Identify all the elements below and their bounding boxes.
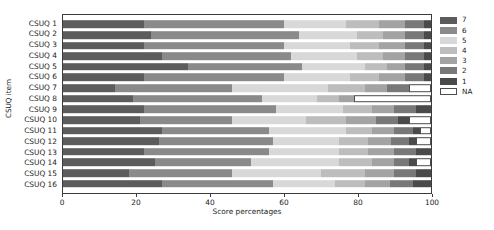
bar-segment bbox=[232, 169, 320, 177]
bar-segment bbox=[63, 148, 144, 156]
y-axis-tick-label: CSUQ 7 bbox=[14, 83, 60, 94]
bar-segment bbox=[144, 106, 276, 114]
legend-item[interactable]: 3 bbox=[440, 57, 490, 65]
bar-segment bbox=[321, 169, 365, 177]
bar-segment bbox=[188, 63, 302, 71]
bar-segment bbox=[284, 21, 347, 29]
bar-segment bbox=[144, 21, 284, 29]
bar-segment bbox=[405, 74, 423, 82]
legend-item[interactable]: 7 bbox=[440, 16, 490, 24]
y-axis-tick-label: CSUQ 10 bbox=[14, 115, 60, 126]
bar-segment bbox=[405, 42, 423, 50]
bar-segment bbox=[368, 137, 390, 145]
x-axis-tick-mark bbox=[432, 194, 433, 197]
x-axis-tick-label: 100 bbox=[425, 198, 439, 207]
bar-segment bbox=[63, 106, 144, 114]
bar-segment bbox=[155, 159, 251, 167]
legend-item[interactable]: NA bbox=[440, 87, 490, 95]
legend: 7654321NA bbox=[440, 16, 490, 95]
y-axis-title-text: CSUQ item bbox=[5, 78, 14, 117]
bar-row bbox=[63, 136, 431, 147]
plot-panel bbox=[62, 14, 432, 194]
bar-segment bbox=[291, 52, 357, 60]
stacked-bar[interactable] bbox=[63, 84, 431, 92]
legend-item[interactable]: 6 bbox=[440, 26, 490, 34]
bar-segment bbox=[394, 148, 416, 156]
x-axis-tick-mark bbox=[358, 194, 359, 197]
legend-label: 2 bbox=[462, 67, 467, 74]
bar-segment bbox=[346, 127, 372, 135]
bar-segment bbox=[262, 95, 317, 103]
bar-segment bbox=[284, 74, 350, 82]
x-axis-tick-label: 60 bbox=[279, 198, 288, 207]
bar-segment bbox=[63, 52, 162, 60]
y-axis-tick-label: CSUQ 3 bbox=[14, 40, 60, 51]
bar-segment bbox=[273, 137, 339, 145]
stacked-bar[interactable] bbox=[63, 169, 431, 177]
y-axis-tick-label: CSUQ 4 bbox=[14, 50, 60, 61]
bar-row bbox=[63, 19, 431, 30]
bar-segment bbox=[372, 106, 394, 114]
bar-row bbox=[63, 157, 431, 168]
stacked-bar[interactable] bbox=[63, 137, 431, 145]
y-axis-tick-label: CSUQ 8 bbox=[14, 93, 60, 104]
legend-swatch bbox=[440, 78, 457, 85]
bar-segment bbox=[365, 84, 387, 92]
bar-segment bbox=[413, 127, 420, 135]
y-axis-tick-label: CSUQ 2 bbox=[14, 29, 60, 40]
bar-segment bbox=[162, 180, 272, 188]
bar-segment bbox=[390, 180, 412, 188]
bar-segment bbox=[365, 63, 387, 71]
bar-segment bbox=[409, 84, 431, 92]
bar-segment bbox=[335, 180, 364, 188]
bar-segment bbox=[405, 63, 423, 71]
stacked-bar[interactable] bbox=[63, 74, 431, 82]
stacked-bar[interactable] bbox=[63, 159, 431, 167]
stacked-bar[interactable] bbox=[63, 31, 431, 39]
bar-segment bbox=[394, 169, 416, 177]
stacked-bar[interactable] bbox=[63, 63, 431, 71]
legend-label: 4 bbox=[462, 47, 467, 54]
bar-segment bbox=[398, 116, 409, 124]
bar-segment bbox=[357, 52, 383, 60]
stacked-bar[interactable] bbox=[63, 42, 431, 50]
bar-segment bbox=[63, 127, 162, 135]
bar-segment bbox=[115, 84, 233, 92]
bar-segment bbox=[350, 74, 379, 82]
stacked-bar[interactable] bbox=[63, 180, 431, 188]
bar-segment bbox=[284, 42, 350, 50]
y-axis-tick-label: CSUQ 16 bbox=[14, 179, 60, 190]
legend-item[interactable]: 2 bbox=[440, 67, 490, 75]
bar-segment bbox=[273, 180, 336, 188]
x-axis-tick-mark bbox=[284, 194, 285, 197]
bar-segment bbox=[339, 137, 368, 145]
stacked-bar[interactable] bbox=[63, 127, 431, 135]
legend-label: 6 bbox=[462, 27, 467, 34]
stacked-bar[interactable] bbox=[63, 148, 431, 156]
bar-segment bbox=[251, 159, 339, 167]
bar-segment bbox=[354, 95, 431, 103]
bar-row bbox=[63, 62, 431, 73]
bar-row bbox=[63, 51, 431, 62]
bar-segment bbox=[409, 116, 431, 124]
y-axis-tick-label: CSUQ 5 bbox=[14, 61, 60, 72]
bar-segment bbox=[328, 84, 365, 92]
stacked-bar[interactable] bbox=[63, 116, 431, 124]
bar-segment bbox=[394, 159, 409, 167]
x-axis-tick-mark bbox=[136, 194, 137, 197]
stacked-bar[interactable] bbox=[63, 21, 431, 29]
stacked-bar[interactable] bbox=[63, 106, 431, 114]
bar-segment bbox=[376, 116, 398, 124]
y-axis-tick-label: CSUQ 6 bbox=[14, 72, 60, 83]
bar-segment bbox=[343, 106, 372, 114]
legend-item[interactable]: 1 bbox=[440, 77, 490, 85]
bar-segment bbox=[63, 63, 188, 71]
bar-segment bbox=[365, 169, 394, 177]
stacked-bar[interactable] bbox=[63, 52, 431, 60]
stacked-bar[interactable] bbox=[63, 95, 431, 103]
bar-segment bbox=[63, 31, 151, 39]
y-axis-tick-label: CSUQ 1 bbox=[14, 18, 60, 29]
y-axis-tick-label: CSUQ 11 bbox=[14, 126, 60, 137]
legend-item[interactable]: 4 bbox=[440, 47, 490, 55]
legend-item[interactable]: 5 bbox=[440, 36, 490, 44]
